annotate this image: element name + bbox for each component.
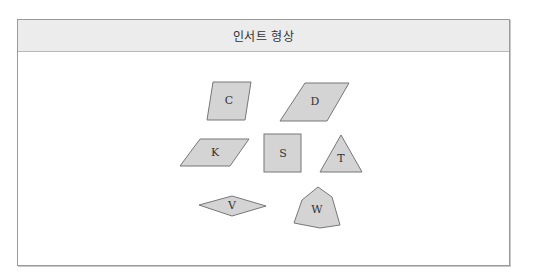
shape-k: K [180,139,249,166]
svg-text:V: V [227,199,237,212]
svg-text:K: K [211,146,220,159]
shapes-diagram: C D K S T V W [0,0,543,277]
svg-text:W: W [311,203,323,216]
svg-text:T: T [337,152,345,165]
shape-w: W [294,187,340,228]
shape-c: C [207,82,251,120]
svg-text:S: S [279,147,287,160]
shape-s: S [264,134,301,172]
svg-text:D: D [311,95,320,108]
svg-text:C: C [225,94,233,107]
shape-v: V [199,196,266,216]
shape-t: T [320,135,362,172]
shape-d: D [280,83,349,121]
